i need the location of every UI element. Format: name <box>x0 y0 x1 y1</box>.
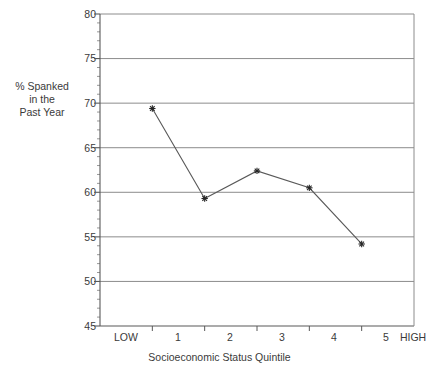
plot-area <box>0 0 439 377</box>
data-point-1 <box>149 105 155 111</box>
gridlines-group <box>100 14 414 281</box>
data-point-3 <box>254 168 260 174</box>
data-point-4 <box>306 185 312 191</box>
x-ticks-group <box>152 326 361 331</box>
data-markers-group <box>149 105 365 247</box>
data-point-2 <box>201 195 207 201</box>
y-major-ticks-group <box>94 14 100 326</box>
data-series-line <box>152 108 361 244</box>
data-point-5 <box>358 241 364 247</box>
chart-container: % Spanked in the Past Year 80 75 70 65 6… <box>0 0 439 377</box>
